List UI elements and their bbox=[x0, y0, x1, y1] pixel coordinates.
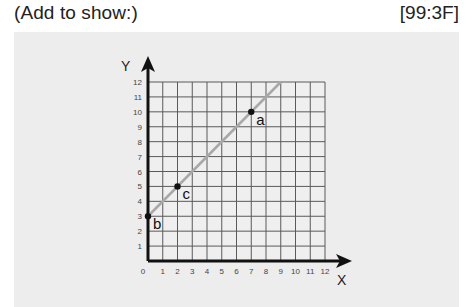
grid bbox=[148, 82, 325, 261]
y-tick-label: 2 bbox=[138, 227, 143, 236]
y-tick-label: 3 bbox=[138, 212, 143, 221]
point-label-c: c bbox=[183, 185, 191, 202]
x-tick-label: 4 bbox=[205, 267, 210, 276]
point-label-b: b bbox=[153, 215, 161, 232]
y-tick-label: 12 bbox=[133, 78, 142, 87]
x-tick-label: 5 bbox=[220, 267, 225, 276]
x-axis-label: X bbox=[337, 272, 347, 288]
x-tick-label: 11 bbox=[306, 267, 315, 276]
y-tick-label: 1 bbox=[138, 242, 143, 251]
y-tick-label: 4 bbox=[138, 197, 143, 206]
coordinate-graph: 0123456789101112123456789101112 X Y abc bbox=[0, 0, 475, 307]
y-tick-label: 8 bbox=[138, 138, 143, 147]
x-tick-label: 12 bbox=[321, 267, 330, 276]
x-tick-label: 2 bbox=[175, 267, 180, 276]
x-tick-label: 7 bbox=[249, 267, 254, 276]
x-tick-label: 8 bbox=[264, 267, 269, 276]
x-tick-label: 1 bbox=[161, 267, 166, 276]
x-tick-label: 10 bbox=[291, 267, 300, 276]
x-tick-label: 9 bbox=[279, 267, 284, 276]
point-b bbox=[145, 213, 151, 219]
y-tick-label: 5 bbox=[138, 182, 143, 191]
point-label-a: a bbox=[256, 111, 265, 128]
y-tick-label: 6 bbox=[138, 168, 143, 177]
x-tick-label: 0 bbox=[141, 267, 146, 276]
y-tick-label: 11 bbox=[134, 93, 143, 102]
y-tick-label: 10 bbox=[133, 108, 142, 117]
x-tick-label: 6 bbox=[234, 267, 239, 276]
x-tick-label: 3 bbox=[190, 267, 195, 276]
y-tick-label: 7 bbox=[138, 153, 143, 162]
point-c bbox=[174, 183, 180, 189]
y-tick-label: 9 bbox=[138, 123, 143, 132]
point-a bbox=[248, 109, 254, 115]
y-axis-label: Y bbox=[121, 58, 131, 74]
